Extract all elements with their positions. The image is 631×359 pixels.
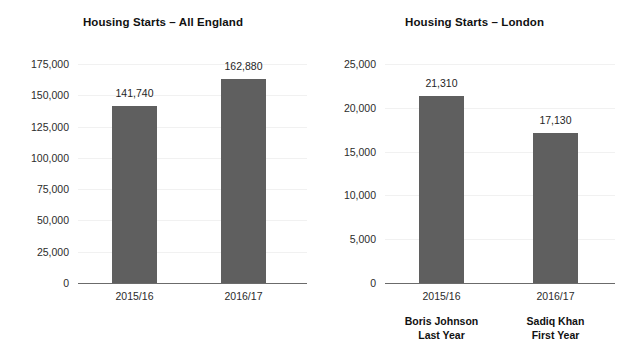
y-axis-tick: 175,000 bbox=[31, 58, 69, 70]
y-axis-tick: 5,000 bbox=[350, 233, 376, 245]
bar-2015-16[interactable]: 21,310 2015/16 Boris Johnson Last Year bbox=[419, 96, 464, 283]
y-axis-tick: 20,000 bbox=[344, 102, 376, 114]
caption-line-1: Boris Johnson bbox=[405, 314, 479, 328]
y-axis-tick: 50,000 bbox=[37, 214, 69, 226]
y-axis-tick: 75,000 bbox=[37, 183, 69, 195]
y-axis-tick: 125,000 bbox=[31, 121, 69, 133]
y-axis-tick: 15,000 bbox=[344, 146, 376, 158]
y-axis-tick: 150,000 bbox=[31, 89, 69, 101]
y-axis-tick: 0 bbox=[370, 277, 376, 289]
bar-2016-17[interactable]: 17,130 2016/17 Sadiq Khan First Year bbox=[533, 133, 578, 283]
y-axis-tick: 25,000 bbox=[37, 246, 69, 258]
bar-caption-sadiq-khan: Sadiq Khan First Year bbox=[527, 314, 585, 342]
bar-value-label: 21,310 bbox=[425, 77, 457, 89]
plot-area-all-england: 175,000 150,000 125,000 100,000 75,000 5… bbox=[78, 64, 307, 283]
x-axis-tick: 2016/17 bbox=[225, 290, 263, 302]
y-axis-tick: 25,000 bbox=[344, 58, 376, 70]
caption-line-1: Sadiq Khan bbox=[527, 314, 585, 328]
y-axis-tick: 100,000 bbox=[31, 152, 69, 164]
bar-2015-16[interactable]: 141,740 2015/16 bbox=[112, 106, 157, 283]
caption-line-2: Last Year bbox=[405, 328, 479, 342]
y-axis-tick: 10,000 bbox=[344, 189, 376, 201]
chart-title-london: Housing Starts – London bbox=[319, 16, 630, 28]
x-axis-tick: 2015/16 bbox=[423, 290, 461, 302]
chart-all-england: Housing Starts – All England 175,000 150… bbox=[0, 0, 320, 359]
bar-value-label: 17,130 bbox=[539, 114, 571, 126]
gridline bbox=[385, 64, 615, 65]
x-axis-tick: 2016/17 bbox=[537, 290, 575, 302]
bar-value-label: 162,880 bbox=[225, 60, 263, 72]
y-axis-tick: 0 bbox=[63, 277, 69, 289]
bar-value-label: 141,740 bbox=[116, 87, 154, 99]
bar-caption-boris-johnson: Boris Johnson Last Year bbox=[405, 314, 479, 342]
gridline bbox=[78, 64, 307, 65]
plot-area-london: 25,000 20,000 15,000 10,000 5,000 0 21,3… bbox=[385, 64, 615, 283]
chart-title-all-england: Housing Starts – All England bbox=[3, 16, 323, 28]
caption-line-2: First Year bbox=[527, 328, 585, 342]
bar-2016-17[interactable]: 162,880 2016/17 bbox=[221, 79, 266, 283]
chart-london: Housing Starts – London 25,000 20,000 15… bbox=[320, 0, 631, 359]
gridline bbox=[78, 95, 307, 96]
x-axis-tick: 2015/16 bbox=[116, 290, 154, 302]
